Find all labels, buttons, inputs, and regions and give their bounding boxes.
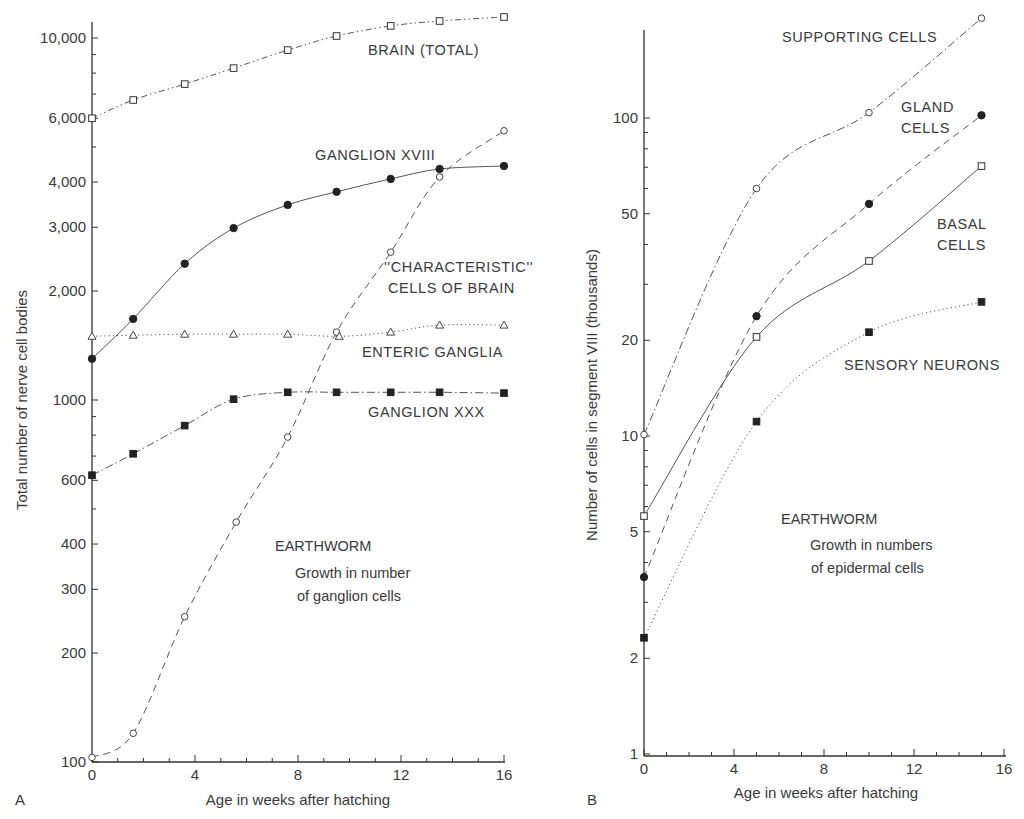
- series-line: [644, 302, 982, 638]
- filled-circle-marker: [181, 260, 188, 267]
- y-tick-label: 200: [61, 644, 86, 661]
- open-square-marker: [436, 18, 443, 25]
- filled-circle-marker: [284, 201, 291, 208]
- open-square-marker: [284, 47, 291, 54]
- x-tick-label: 4: [191, 766, 199, 783]
- y-tick-label: 100: [613, 109, 638, 126]
- series-enteric-ganglia: [88, 321, 508, 339]
- series-supporting-cells: [641, 15, 985, 438]
- filled-square-marker: [333, 389, 340, 396]
- panel-a-note-title: EARTHWORM: [275, 538, 371, 554]
- filled-circle-marker: [387, 175, 394, 182]
- open-triangle-marker: [436, 321, 444, 328]
- series-label: ''CHARACTERISTIC'': [384, 259, 533, 275]
- x-tick-label: 8: [294, 766, 302, 783]
- series-line: [92, 17, 504, 118]
- open-triangle-marker: [88, 332, 96, 339]
- y-tick-label: 300: [61, 580, 86, 597]
- x-tick-label: 16: [996, 760, 1013, 777]
- panel-a-note-line1: Growth in number: [295, 565, 410, 581]
- open-circle-marker: [978, 15, 985, 22]
- open-circle-marker: [233, 519, 240, 526]
- y-tick-label: 5: [630, 523, 638, 540]
- y-tick-label: 6,000: [48, 109, 86, 126]
- open-triangle-marker: [500, 321, 508, 328]
- filled-square-marker: [641, 635, 648, 642]
- open-square-marker: [181, 81, 188, 88]
- filled-circle-marker: [753, 313, 760, 320]
- panel-a-chart: 10020030040060010002,0003,0004,0006,0001…: [13, 14, 533, 808]
- open-circle-marker: [387, 249, 394, 256]
- figure: 10020030040060010002,0003,0004,0006,0001…: [0, 0, 1024, 819]
- panel-b-x-axis-title: Age in weeks after hatching: [734, 784, 918, 801]
- open-circle-marker: [89, 754, 96, 761]
- series-line: [644, 115, 982, 577]
- series-label: GANGLION XVIII: [315, 147, 435, 163]
- y-tick-label: 4,000: [48, 173, 86, 190]
- open-square-marker: [89, 115, 96, 122]
- filled-circle-marker: [88, 355, 95, 362]
- panel-b-note-line2: of epidermal cells: [811, 560, 924, 576]
- panel-a-axes: 10020030040060010002,0003,0004,0006,0001…: [40, 22, 512, 783]
- series-label: SUPPORTING CELLS: [782, 29, 937, 45]
- panel-a-x-axis-title: Age in weeks after hatching: [206, 791, 390, 808]
- filled-square-marker: [501, 390, 508, 397]
- open-square-marker: [501, 14, 508, 21]
- y-tick-label: 400: [61, 535, 86, 552]
- series-label: CELLS: [937, 237, 986, 253]
- open-square-marker: [866, 258, 873, 265]
- open-circle-marker: [436, 174, 443, 181]
- panel-b-note-line1: Growth in numbers: [810, 537, 933, 553]
- panel-a-series: [88, 14, 508, 761]
- x-tick-label: 0: [88, 766, 96, 783]
- panel-a-letter: A: [15, 791, 25, 808]
- y-tick-label: 2,000: [48, 282, 86, 299]
- y-tick-label: 2: [630, 649, 638, 666]
- open-circle-marker: [284, 434, 291, 441]
- x-tick-label: 16: [496, 766, 513, 783]
- series-label: SENSORY NEURONS: [844, 357, 1000, 373]
- series-label: CELLS OF BRAIN: [388, 280, 515, 296]
- filled-circle-marker: [500, 162, 507, 169]
- filled-square-marker: [181, 422, 188, 429]
- filled-circle-marker: [640, 573, 647, 580]
- open-square-marker: [641, 513, 648, 520]
- panel-b-note-title: EARTHWORM: [781, 511, 877, 527]
- panel-b-y-axis-title: Number of cells in segment VIII (thousan…: [583, 249, 600, 541]
- panel-b-series-labels: SUPPORTING CELLSGLANDCELLSBASALCELLSSENS…: [782, 29, 1000, 373]
- series-label: GANGLION XXX: [368, 404, 485, 420]
- y-tick-label: 10,000: [40, 29, 86, 46]
- y-tick-label: 1000: [53, 391, 86, 408]
- filled-square-marker: [387, 389, 394, 396]
- series-label: BRAIN (TOTAL): [368, 42, 479, 58]
- series-line: [644, 166, 982, 516]
- open-square-marker: [130, 97, 137, 104]
- series-label: GLAND: [901, 99, 954, 115]
- filled-square-marker: [230, 396, 237, 403]
- filled-square-marker: [89, 472, 96, 479]
- series-brain-total: [89, 14, 508, 122]
- filled-square-marker: [436, 389, 443, 396]
- series-sensory-neurons: [641, 299, 985, 641]
- panel-b-letter: B: [587, 791, 597, 808]
- series-basal-cells: [641, 163, 985, 520]
- series-line: [92, 131, 504, 758]
- y-tick-label: 50: [621, 205, 638, 222]
- panel-b-chart: 1251020501000481216 SUPPORTING CELLSGLAN…: [583, 15, 1012, 808]
- series-label: ENTERIC GANGLIA: [362, 344, 503, 360]
- y-tick-label: 100: [61, 753, 86, 770]
- y-tick-label: 1: [630, 745, 638, 762]
- series-label: CELLS: [901, 120, 950, 136]
- open-triangle-marker: [387, 328, 395, 335]
- filled-square-marker: [130, 451, 137, 458]
- filled-square-marker: [978, 299, 985, 306]
- filled-square-marker: [284, 389, 291, 396]
- filled-circle-marker: [978, 112, 985, 119]
- panel-b-axes: 1251020501000481216: [613, 30, 1012, 777]
- open-triangle-marker: [181, 330, 189, 337]
- series-label: BASAL: [937, 216, 987, 232]
- y-tick-label: 3,000: [48, 218, 86, 235]
- open-triangle-marker: [284, 330, 292, 337]
- open-triangle-marker: [129, 331, 137, 338]
- open-square-marker: [387, 23, 394, 30]
